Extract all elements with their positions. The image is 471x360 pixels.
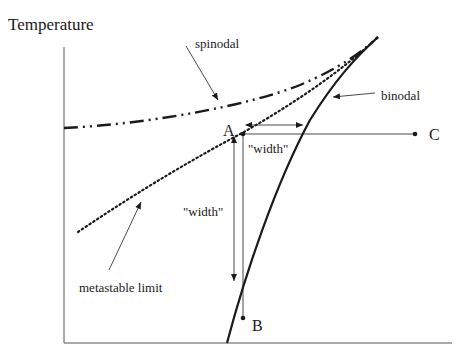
- metastable-limit-label: metastable limit: [79, 280, 163, 295]
- y-axis-label: Temperature: [8, 15, 94, 34]
- point-a-label: A: [223, 122, 235, 139]
- spinodal-label: spinodal: [195, 36, 239, 51]
- point-b-marker: [241, 316, 246, 321]
- phase-diagram: Temperature spinodal binodal metastable …: [0, 0, 471, 360]
- binodal-pointer-arrow: [333, 93, 375, 97]
- spinodal-pointer-arrow: [186, 46, 218, 100]
- metastable-pointer-arrow: [109, 202, 141, 270]
- point-b-label: B: [252, 317, 263, 334]
- horizontal-width-label: "width": [248, 141, 288, 156]
- vertical-width-label: "width": [183, 204, 223, 219]
- point-c-marker: [413, 132, 418, 137]
- point-c-label: C: [429, 126, 440, 143]
- binodal-label: binodal: [381, 88, 420, 103]
